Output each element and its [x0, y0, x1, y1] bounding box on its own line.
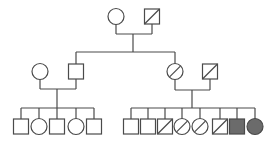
- square-symbol: [141, 119, 156, 134]
- female-individual-III-4: [68, 119, 84, 135]
- circle-symbol: [32, 64, 48, 80]
- square-symbol: [230, 119, 245, 134]
- female-individual-II-1: [32, 64, 48, 80]
- male-individual-III-6: [124, 119, 139, 134]
- square-symbol: [69, 64, 84, 79]
- square-symbol: [87, 119, 102, 134]
- square-symbol: [124, 119, 139, 134]
- female-individual-III-9: [174, 119, 190, 135]
- pedigree-chart: [0, 0, 276, 146]
- circle-symbol: [247, 119, 263, 135]
- female-individual-III-13: [247, 119, 263, 135]
- male-individual-II-4: [203, 64, 218, 79]
- square-symbol: [14, 119, 29, 134]
- individuals: [14, 9, 264, 135]
- male-individual-III-5: [87, 119, 102, 134]
- male-individual-II-2: [69, 64, 84, 79]
- male-individual-III-3: [50, 119, 65, 134]
- circle-symbol: [108, 9, 124, 25]
- male-individual-III-8: [158, 119, 173, 134]
- circle-symbol: [68, 119, 84, 135]
- female-individual-III-10: [192, 119, 208, 135]
- male-individual-I-2: [145, 9, 160, 24]
- male-individual-III-7: [141, 119, 156, 134]
- square-symbol: [50, 119, 65, 134]
- female-individual-II-3: [167, 64, 183, 80]
- female-individual-I-1: [108, 9, 124, 25]
- circle-symbol: [31, 119, 47, 135]
- male-individual-III-11: [213, 119, 228, 134]
- connector-lines: [21, 24, 255, 119]
- male-individual-III-1: [14, 119, 29, 134]
- female-individual-III-2: [31, 119, 47, 135]
- male-individual-III-12: [230, 119, 245, 134]
